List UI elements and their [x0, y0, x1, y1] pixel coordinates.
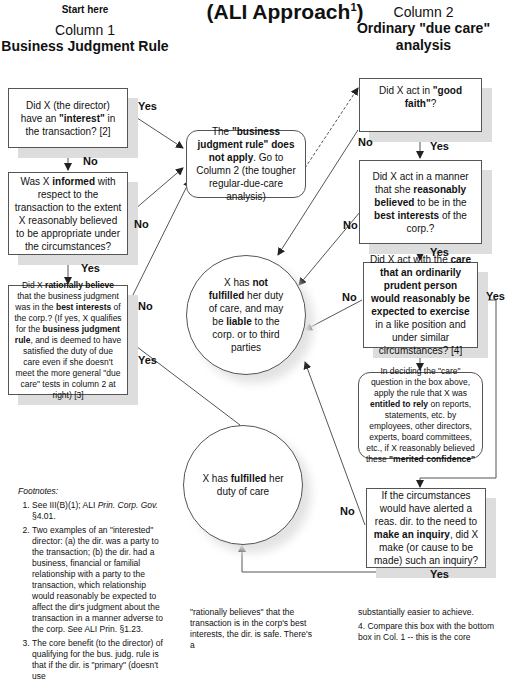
edge-label-no: No: [342, 291, 357, 303]
footnote-3-continued: "rationally believes" that the transacti…: [190, 607, 315, 651]
reliance-rule-box: In deciding the "care" question in the b…: [358, 372, 483, 459]
edge-label-yes: Yes: [138, 354, 157, 366]
footnote-right-column: substantially easier to achieve. 4. Comp…: [358, 607, 498, 643]
edge-label-no: No: [340, 505, 355, 517]
edge-label-no: No: [134, 218, 149, 230]
prudent-care-question-box: Did X act with the care that an ordinari…: [363, 262, 478, 348]
fulfilled-outcome: X has fulfilled her duty of care: [183, 425, 303, 545]
edge-label-no: No: [343, 219, 358, 231]
footnote-3: The core benefit (to the director) of qu…: [32, 638, 166, 682]
bjr-not-apply-box: The "business judgment rule" does not ap…: [186, 130, 306, 198]
rational-belief-question-box: Did X rationally believe that the busine…: [8, 285, 128, 395]
footnotes: Footnotes: See III(B)(1); ALI Prin. Corp…: [18, 486, 166, 683]
interest-question-box: Did X (the director) have an "interest" …: [8, 88, 128, 148]
edge-label-yes: Yes: [430, 140, 449, 152]
edge-label-yes: Yes: [81, 262, 100, 274]
edge-label-no: No: [358, 136, 373, 148]
edge-label-no: No: [138, 300, 153, 312]
footnote-1: See III(B)(1); ALI Prin. Corp. Gov. §4.0…: [32, 500, 166, 522]
edge-label-yes: Yes: [430, 246, 449, 258]
footnotes-heading: Footnotes:: [18, 486, 166, 497]
edge-label-no: No: [83, 155, 98, 167]
informed-question-box: Was X informed with respect to the trans…: [8, 172, 128, 255]
edge-label-yes: Yes: [138, 100, 157, 112]
edge-label-yes: Yes: [486, 290, 505, 302]
edge-label-yes: Yes: [430, 568, 449, 580]
inquiry-question-box: If the circumstances would have alerted …: [366, 488, 486, 568]
not-fulfilled-outcome: X has not fulfilled her duty of care, an…: [186, 255, 306, 375]
reasonable-belief-question-box: Did X act in a manner that she reasonabl…: [359, 160, 482, 244]
good-faith-question-box: Did X act in "good faith"?: [359, 78, 482, 132]
footnote-2: Two examples of an "interested" director…: [32, 525, 166, 635]
